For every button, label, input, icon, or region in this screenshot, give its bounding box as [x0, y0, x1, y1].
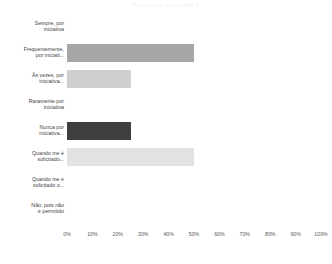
- x-tick-label: 50%: [189, 231, 199, 238]
- plot-area: [67, 18, 321, 230]
- chart-title: Proporcao e escolha 5: [0, 1, 332, 8]
- x-tick-label: 60%: [214, 231, 224, 238]
- x-tick-label: 80%: [265, 231, 275, 238]
- category-label: Não, pois não é permitido: [0, 202, 64, 215]
- bar-row: [67, 70, 321, 88]
- category-label: Quando me é solicitado...: [0, 150, 64, 163]
- bar-quando-solicitado[interactable]: [67, 148, 194, 166]
- x-tick-label: 10%: [87, 231, 97, 238]
- x-tick-label: 40%: [163, 231, 173, 238]
- category-label: Quando me é solicitado o...: [0, 176, 64, 189]
- category-axis-labels: Sempre, por iniciativa Frequentemente, p…: [0, 18, 66, 230]
- bar-row: [67, 200, 321, 218]
- x-tick-label: 20%: [113, 231, 123, 238]
- bar-row: [67, 122, 321, 140]
- bar-chart: Proporcao e escolha 5 Sempre, por inicia…: [0, 0, 332, 264]
- bar-nunca[interactable]: [67, 122, 131, 140]
- bar-as-vezes[interactable]: [67, 70, 131, 88]
- x-axis: 0% 10% 20% 30% 40% 50% 60% 70% 80% 90% 1…: [67, 231, 321, 243]
- bar-frequentemente[interactable]: [67, 44, 194, 62]
- bar-row: [67, 174, 321, 192]
- x-tick-label: 90%: [290, 231, 300, 238]
- category-label: Nunca por iniciativa...: [0, 124, 64, 137]
- category-label: Frequentemente, por iniciati...: [0, 46, 64, 59]
- bar-row: [67, 18, 321, 36]
- x-tick-label: 70%: [240, 231, 250, 238]
- x-tick-label: 0%: [63, 231, 71, 238]
- x-tick-label: 100%: [314, 231, 327, 238]
- category-label: Raramente por iniciativa: [0, 98, 64, 111]
- bar-row: [67, 96, 321, 114]
- bar-row: [67, 148, 321, 166]
- x-tick-label: 30%: [138, 231, 148, 238]
- bar-row: [67, 44, 321, 62]
- category-label: Sempre, por iniciativa: [0, 20, 64, 33]
- category-label: Às vezes, por iniciativa...: [0, 72, 64, 85]
